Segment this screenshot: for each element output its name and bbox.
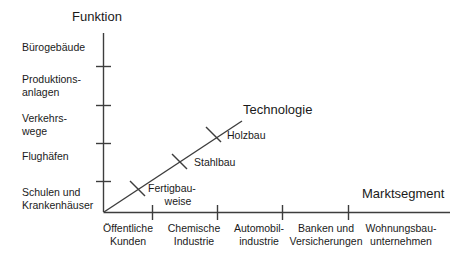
label-line: anlagen: [22, 86, 81, 99]
horizontal-axis-label-wohnungsbauunternehmen: Wohnungsbau- unternehmen: [362, 222, 440, 248]
label-line: Schulen und: [22, 186, 93, 199]
label-line: Automobil-: [226, 222, 292, 235]
horizontal-axis-label-offentliche-kunden: Öffentliche Kunden: [95, 222, 161, 248]
label-line: Versicherungen: [288, 235, 364, 248]
label-line: Verkehrs-: [22, 112, 67, 125]
label-line: Holzbau: [227, 129, 266, 142]
label-line: Öffentliche: [95, 222, 161, 235]
vertical-axis-title: Funktion: [72, 9, 122, 24]
label-line: wege: [22, 125, 67, 138]
label-line: Chemische: [161, 222, 227, 235]
label-line: Produktions-: [22, 73, 81, 86]
label-line: Banken und: [288, 222, 364, 235]
vertical-axis-label-schulen-krankenhauser: Schulen und Krankenhäuser: [22, 186, 93, 212]
label-line: Stahlbau: [194, 156, 235, 169]
diagonal-axis-label-fertigbauweise: Fertigbau- weise: [148, 182, 208, 208]
diagonal-axis-label-stahlbau: Stahlbau: [194, 156, 235, 169]
vertical-axis-label-verkehrswege: Verkehrs- wege: [22, 112, 67, 138]
label-line: Krankenhäuser: [22, 199, 93, 212]
diagram-canvas: Funktion Technologie Marktsegment Büroge…: [0, 0, 464, 266]
label-line: Fertigbau-: [148, 182, 208, 195]
horizontal-axis-label-automobilindustrie: Automobil- industrie: [226, 222, 292, 248]
vertical-axis-label-flughafen: Flughäfen: [22, 150, 69, 163]
label-line: Industrie: [161, 235, 227, 248]
diagonal-axis-tick: [172, 154, 187, 169]
label-line: Kunden: [95, 235, 161, 248]
diagonal-axis-label-holzbau: Holzbau: [227, 129, 266, 142]
label-line: Bürogebäude: [22, 41, 85, 54]
vertical-axis-label-burogebaude: Bürogebäude: [22, 41, 85, 54]
label-line: Flughäfen: [22, 150, 69, 163]
label-line: weise: [148, 195, 208, 208]
label-line: Wohnungsbau-: [362, 222, 440, 235]
diagonal-axis-title: Technologie: [243, 102, 312, 117]
label-line: unternehmen: [362, 235, 440, 248]
horizontal-axis-title: Marktsegment: [362, 186, 444, 201]
label-line: industrie: [226, 235, 292, 248]
horizontal-axis-label-banken-versicherungen: Banken und Versicherungen: [288, 222, 364, 248]
vertical-axis-label-produktionsanlagen: Produktions- anlagen: [22, 73, 81, 99]
horizontal-axis-label-chemische-industrie: Chemische Industrie: [161, 222, 227, 248]
